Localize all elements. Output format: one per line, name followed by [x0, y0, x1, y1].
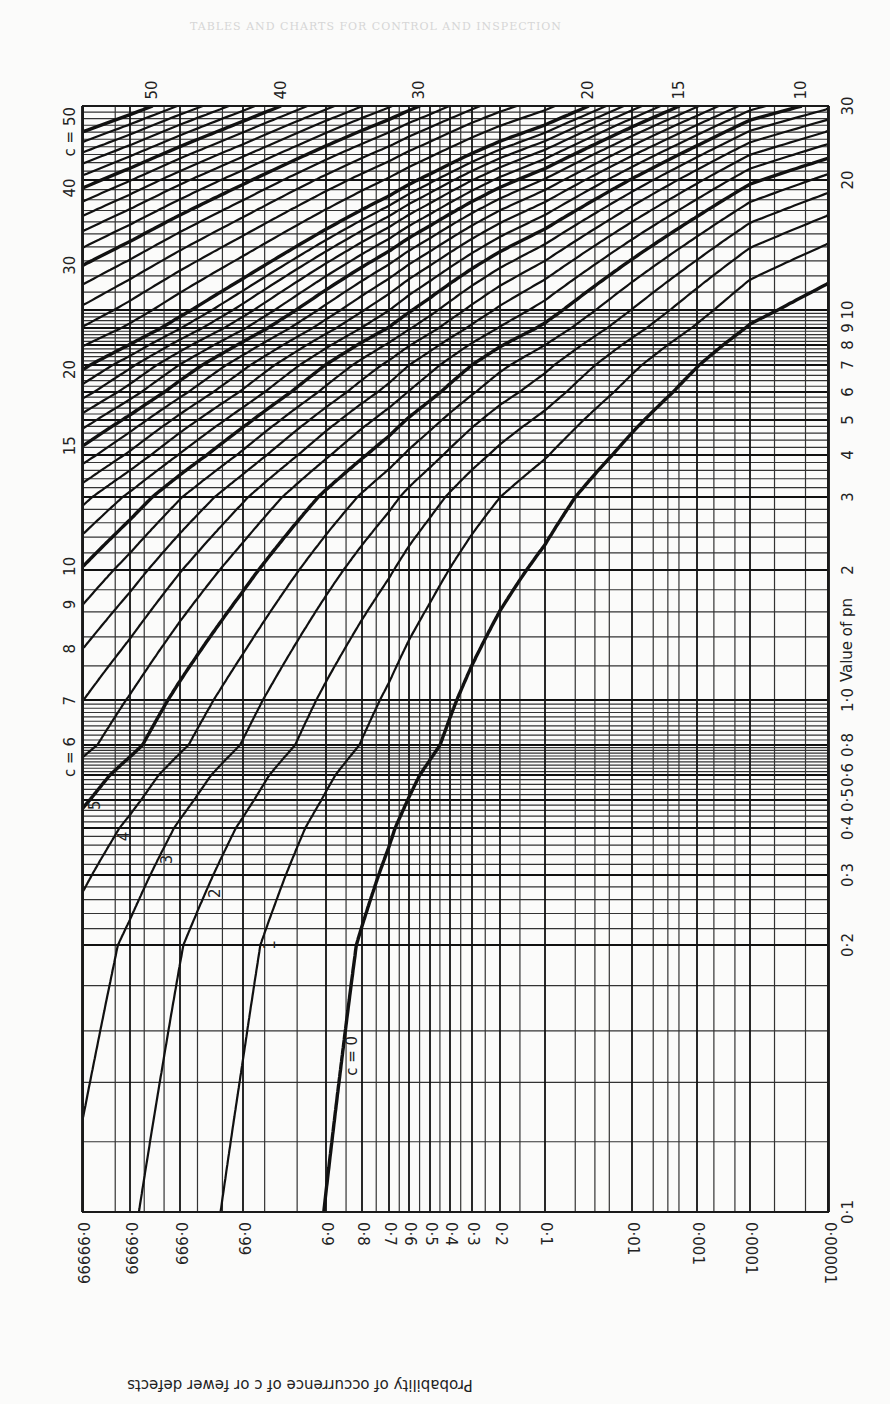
top-edge-label-c-30: 30 [410, 80, 428, 99]
pn-tick-label: 0·3 [839, 863, 857, 887]
pn-tick-label: 0·5 [839, 788, 857, 812]
probability-tick-label: 0·1 [537, 1222, 555, 1246]
left-edge-label-c-6: c = 6 [61, 737, 79, 777]
probability-tick-label: 0·9999 [122, 1222, 140, 1275]
left-edge-label-c-7: 7 [61, 696, 79, 706]
probability-tick-label: 0·9 [318, 1222, 336, 1246]
pn-tick-label: 4 [839, 450, 857, 460]
top-edge-label-c-50: 50 [143, 80, 161, 99]
left-edge-label-c-15: 15 [61, 436, 79, 455]
left-edge-label-c-20: 20 [61, 360, 79, 379]
pn-tick-label: 0·4 [839, 816, 857, 840]
probability-tick-label: 0·5 [422, 1222, 440, 1246]
left-edge-label-c-40: 40 [61, 178, 79, 197]
top-edge-label-c-15: 15 [670, 80, 688, 99]
pn-tick-label: 6 [839, 387, 857, 397]
pn-tick-label: 30 [839, 96, 857, 115]
top-edge-label-c-10: 10 [792, 80, 810, 99]
probability-tick-label: 0·99999 [74, 1222, 92, 1284]
probability-tick-label: 0·999 [172, 1222, 190, 1265]
pn-tick-label: 5 [839, 415, 857, 425]
pn-tick-label: 1·0 [839, 688, 857, 712]
probability-tick-label: 0·00001 [821, 1222, 839, 1284]
probability-tick-label: 0·4 [442, 1222, 460, 1246]
pn-tick-label: 2 [839, 565, 857, 575]
left-edge-label-c-30: 30 [61, 256, 79, 275]
probability-tick-label: 0·3 [464, 1222, 482, 1246]
curve-label-c-2: 2 [206, 888, 224, 898]
curve-c-24 [82, 106, 517, 333]
pn-axis-title: Value of pn [838, 598, 856, 682]
curve-c-15 [82, 106, 680, 454]
probability-tick-label: 0·99 [235, 1222, 253, 1255]
probability-tick-label: 0·01 [624, 1222, 642, 1255]
pn-tick-label: 9 [839, 323, 857, 333]
pn-tick-label: 10 [839, 300, 857, 319]
top-edge-label-c-20: 20 [579, 80, 597, 99]
probability-tick-label: 0·7 [381, 1222, 399, 1246]
pn-tick-label: 0·2 [839, 933, 857, 957]
poisson-probability-chart: 0·10·20·30·40·50·60·81·023456789102030 0… [0, 0, 890, 1404]
pn-tick-label: 0·1 [839, 1200, 857, 1224]
pn-tick-label: 7 [839, 360, 857, 370]
curve-label-c-4: 4 [115, 832, 133, 842]
probability-tick-label: 0·8 [354, 1222, 372, 1246]
left-edge-label-c-50: c = 50 [61, 107, 79, 156]
curve-c-8 [82, 115, 829, 665]
probability-tick-label: 0·6 [401, 1222, 419, 1246]
probability-tick-label: 0·2 [492, 1222, 510, 1246]
pn-tick-label: 20 [839, 170, 857, 189]
curve-label-c-3: 3 [158, 855, 176, 865]
curve-c-9 [82, 106, 829, 618]
pn-tick-label: 8 [839, 340, 857, 350]
probability-tick-label: 0·001 [689, 1222, 707, 1265]
probability-tick-label: 0·0001 [742, 1222, 760, 1275]
probability-axis-ticks: 0·999990·99990·9990·990·90·80·70·60·50·4… [74, 1222, 839, 1284]
curve-label-c-0: c = 0 [343, 1036, 361, 1076]
probability-axis-title: Probability of occurrence of c or fewer … [127, 1376, 473, 1394]
curve-c-6 [82, 139, 829, 768]
pn-tick-label: 0·6 [839, 763, 857, 787]
top-edge-label-c-40: 40 [272, 80, 290, 99]
pn-tick-label: 0·8 [839, 733, 857, 757]
curve-c-1 [221, 236, 830, 1212]
curve-label-c-1: 1 [261, 940, 279, 950]
curve-c-46 [82, 106, 203, 156]
left-edge-label-c-10: 10 [61, 557, 79, 576]
poisson-curves [82, 106, 829, 1212]
curve-label-c-5: 5 [86, 800, 104, 810]
left-edge-label-c-9: 9 [61, 600, 79, 610]
left-edge-label-c-8: 8 [61, 644, 79, 654]
pn-tick-label: 3 [839, 492, 857, 502]
